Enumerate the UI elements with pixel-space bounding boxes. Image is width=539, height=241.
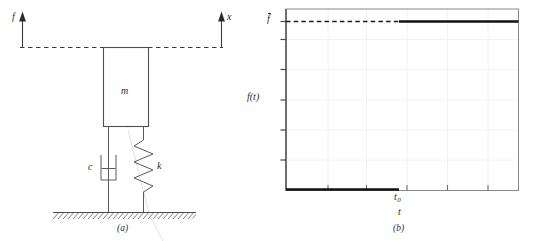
panel-b-plot: f f(t) t0 t (b) (260, 0, 539, 241)
schematic-svg (0, 0, 270, 241)
plot-svg (260, 0, 539, 241)
damper-label: c (88, 162, 92, 172)
panel-a-caption: (a) (117, 223, 128, 233)
displacement-arrow-label: x (227, 12, 231, 22)
mass-label: m (121, 86, 128, 96)
fbar-glyph: f (267, 14, 270, 24)
spring-label: k (157, 161, 161, 171)
panel-a-schematic: f x m c k (a) (0, 0, 270, 241)
force-arrow-label: f (12, 12, 15, 22)
figure-root: f x m c k (a) (0, 0, 539, 241)
y-axis-label: f(t) (247, 92, 259, 102)
y-axis-ticks (281, 22, 287, 161)
coil-spring (134, 136, 153, 212)
fbar-axis-label: f (267, 14, 270, 24)
displacement-arrow (218, 12, 225, 48)
panel-b-caption: (b) (393, 223, 404, 233)
x-axis-label: t (398, 207, 401, 217)
force-arrow (19, 12, 26, 48)
t0-tick-label: t0 (394, 192, 400, 202)
ground-hatching (53, 213, 196, 219)
